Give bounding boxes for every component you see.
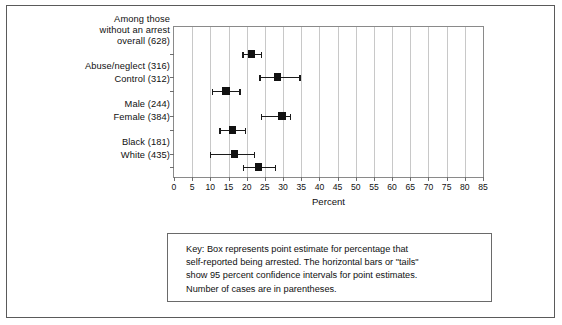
point-estimate-box-white [255,163,262,171]
x-axis-tick-labels: 0510152025303540455055606570758085 [173,182,484,194]
x-tick-40 [319,177,320,181]
datapoint-white [174,167,483,168]
key-line-3: show 95 percent confidence intervals for… [186,269,478,282]
x-tick-80 [465,177,466,181]
x-tick-55 [374,177,375,181]
x-tick-label-80: 80 [460,182,470,192]
x-tick-label-85: 85 [478,182,488,192]
datapoint-overall [174,54,483,55]
x-tick-10 [210,177,211,181]
x-tick-30 [283,177,284,181]
category-label-white: White (435) [121,150,170,161]
x-tick-5 [192,177,193,181]
ci-cap-low-control [212,89,213,95]
category-label-female: Female (384) [114,112,171,123]
ci-cap-high-female [245,128,246,134]
x-tick-75 [447,177,448,181]
x-tick-label-20: 20 [242,182,252,192]
forest-plot-figure: Among those without an arrest overall (6… [0,0,562,325]
x-tick-label-5: 5 [190,182,195,192]
category-label-abuse-neglect: Abuse/neglect (316) [85,61,170,72]
category-label-black: Black (181) [122,137,170,148]
x-tick-label-0: 0 [172,182,177,192]
x-tick-20 [247,177,248,181]
x-tick-label-75: 75 [442,182,452,192]
point-estimate-box-black [231,150,238,158]
key-text: Key: Box represents point estimate for p… [186,243,478,296]
key-line-2: self-reported being arrested. The horizo… [186,256,478,269]
plot-area [173,26,484,178]
ci-cap-high-overall [261,52,262,58]
ci-cap-high-male [290,114,291,120]
datapoint-female [174,130,483,131]
x-tick-85 [483,177,484,181]
point-estimate-box-control [222,87,229,95]
x-tick-60 [392,177,393,181]
point-estimate-box-overall [248,50,255,58]
ci-cap-high-black [254,152,255,158]
x-tick-50 [356,177,357,181]
x-tick-65 [410,177,411,181]
x-tick-label-60: 60 [387,182,397,192]
x-tick-label-10: 10 [206,182,216,192]
category-label-male: Male (244) [125,99,170,110]
point-estimate-box-female [229,126,236,134]
ci-cap-low-abuse-neglect [259,75,260,81]
x-axis-title: Percent [173,196,484,207]
x-tick-label-30: 30 [278,182,288,192]
ci-cap-low-black [210,152,211,158]
x-tick-70 [428,177,429,181]
x-tick-label-55: 55 [369,182,379,192]
ci-cap-high-abuse-neglect [299,75,300,81]
ci-cap-low-male [261,114,262,120]
x-tick-35 [301,177,302,181]
datapoint-abuse-neglect [174,77,483,78]
x-tick-label-40: 40 [315,182,325,192]
ci-cap-low-white [243,165,244,171]
x-tick-45 [338,177,339,181]
key-box: Key: Box represents point estimate for p… [167,233,492,302]
x-tick-label-15: 15 [224,182,234,192]
datapoint-black [174,154,483,155]
category-label-overall: Among those without an arrest overall (6… [100,14,170,48]
ci-cap-high-control [239,89,240,95]
x-tick-label-70: 70 [424,182,434,192]
x-tick-label-35: 35 [296,182,306,192]
x-tick-label-45: 45 [333,182,343,192]
point-estimate-box-male [278,112,285,120]
key-line-1: Key: Box represents point estimate for p… [186,243,478,256]
ci-cap-low-overall [242,52,243,58]
category-labels: Among those without an arrest overall (6… [34,14,170,174]
x-tick-15 [229,177,230,181]
category-label-control: Control (312) [114,74,170,85]
x-tick-0 [174,177,175,181]
x-tick-label-50: 50 [351,182,361,192]
ci-cap-low-female [219,128,220,134]
x-tick-label-25: 25 [260,182,270,192]
x-tick-25 [265,177,266,181]
ci-cap-high-white [275,165,276,171]
datapoint-male [174,116,483,117]
x-tick-label-65: 65 [406,182,416,192]
point-estimate-box-abuse-neglect [274,73,281,81]
datapoint-control [174,91,483,92]
key-line-4: Number of cases are in parentheses. [186,283,478,296]
